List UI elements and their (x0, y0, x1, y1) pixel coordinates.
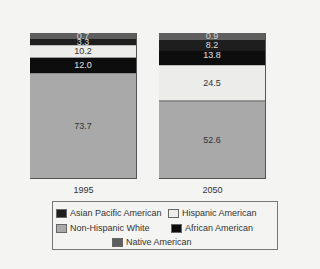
legend-swatch-native (112, 238, 123, 247)
segment-hispanic-american-2050: 24.5 (159, 65, 265, 101)
bar-2050: 0.9 8.2 13.8 24.5 52.6 (159, 33, 266, 179)
segment-african-american-1995: 12.0 (30, 58, 136, 73)
segment-asian-pacific-american-2050: 8.2 (159, 40, 265, 51)
segment-african-american-2050: 13.8 (159, 51, 265, 65)
legend-label-hispanic: Hispanic American (182, 208, 257, 218)
legend: Asian Pacific American Hispanic American… (52, 201, 278, 250)
legend-swatch-white (56, 224, 67, 233)
legend-item-african-american: African American (171, 223, 253, 233)
segment-non-hispanic-white-1995: 73.7 (30, 73, 136, 178)
x-label-2050: 2050 (159, 185, 266, 195)
segment-native-american-2050: 0.9 (159, 33, 265, 40)
legend-swatch-asian (56, 209, 67, 218)
legend-swatch-african (171, 224, 182, 233)
legend-item-native-american: Native American (112, 237, 192, 247)
segment-non-hispanic-white-2050: 52.6 (159, 101, 265, 178)
legend-label-african: African American (185, 223, 253, 233)
legend-item-hispanic-american: Hispanic American (168, 208, 257, 218)
legend-label-white: Non-Hispanic White (70, 223, 150, 233)
segment-hispanic-american-1995: 10.2 (30, 45, 136, 58)
legend-swatch-hispanic (168, 209, 179, 218)
legend-label-native: Native American (126, 237, 192, 247)
bar-1995: 0.7 3.3 10.2 12.0 73.7 (30, 33, 137, 179)
x-label-1995: 1995 (30, 185, 137, 195)
legend-label-asian: Asian Pacific American (70, 208, 162, 218)
legend-item-non-hispanic-white: Non-Hispanic White (56, 223, 150, 233)
legend-item-asian-pacific-american: Asian Pacific American (56, 208, 162, 218)
